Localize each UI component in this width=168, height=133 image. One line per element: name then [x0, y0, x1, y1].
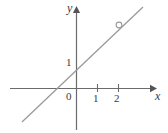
open-circle-marker: [116, 22, 122, 28]
x-tick-label-1: 1: [93, 93, 99, 104]
x-tick-label-2: 2: [114, 93, 120, 104]
y-axis-label: y: [67, 2, 72, 14]
coordinate-plane-svg: [0, 0, 168, 133]
graph-figure: y x 0 1 1 2: [0, 0, 168, 133]
origin-label: 0: [66, 91, 72, 102]
x-axis-label: x: [155, 90, 160, 102]
y-axis-arrow-icon: [73, 6, 80, 13]
plot-line-series-1: [22, 7, 143, 122]
y-tick-label-1: 1: [66, 57, 72, 68]
